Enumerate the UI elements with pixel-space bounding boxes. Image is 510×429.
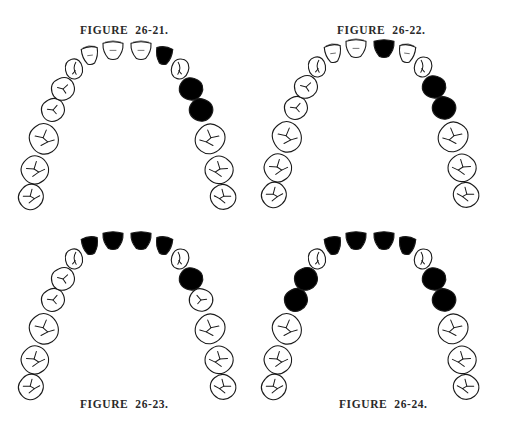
- tooth-right-canine: [169, 247, 190, 271]
- tooth-right-canine: [412, 247, 433, 271]
- tooth-left-third-molar: [14, 180, 49, 214]
- tooth-left-central-incisor: [103, 232, 123, 250]
- tooth-left-first-molar: [24, 309, 64, 350]
- tooth-left-first-molar: [267, 309, 307, 350]
- tooth-right-lateral-incisor: [155, 236, 173, 256]
- tooth-right-second-molar: [200, 151, 238, 189]
- tooth-left-second-molar: [16, 341, 54, 379]
- tooth-right-lateral-incisor: [155, 46, 173, 66]
- figure-26-23: FIGURE 26-23.: [0, 215, 255, 429]
- dental-arch: [0, 215, 255, 429]
- figure-caption: FIGURE 26-21.: [80, 24, 169, 36]
- tooth-left-central-incisor: [103, 41, 123, 60]
- figure-caption: FIGURE 26-23.: [80, 398, 169, 410]
- tooth-left-second-molar: [259, 341, 297, 379]
- tooth-right-canine: [169, 57, 190, 81]
- tooth-left-lateral-incisor: [81, 236, 99, 256]
- tooth-right-lateral-incisor: [398, 43, 416, 64]
- tooth-left-third-molar: [257, 178, 292, 213]
- tooth-right-central-incisor: [374, 232, 394, 250]
- figure-caption: FIGURE 26-22.: [337, 24, 426, 36]
- figure-caption: FIGURE 26-24.: [339, 398, 428, 410]
- tooth-right-first-molar: [190, 309, 230, 350]
- tooth-right-second-molar: [443, 341, 481, 379]
- tooth-left-lateral-incisor: [324, 236, 342, 256]
- tooth-left-central-incisor: [346, 39, 366, 58]
- dental-arch: [255, 215, 510, 429]
- tooth-left-lateral-incisor: [324, 43, 342, 64]
- tooth-right-first-molar: [433, 309, 473, 350]
- tooth-left-central-incisor: [346, 232, 366, 250]
- tooth-left-first-molar: [267, 117, 307, 158]
- tooth-right-central-incisor: [131, 232, 151, 250]
- figure-26-21: FIGURE 26-21.: [0, 0, 255, 214]
- tooth-right-third-molar: [449, 370, 484, 405]
- tooth-right-third-molar: [449, 178, 484, 213]
- tooth-left-second-molar: [16, 151, 54, 189]
- tooth-right-second-molar: [443, 149, 481, 187]
- tooth-left-first-molar: [24, 119, 64, 160]
- figure-26-22: FIGURE 26-22.: [255, 0, 510, 214]
- tooth-right-central-incisor: [374, 40, 394, 58]
- tooth-right-canine: [412, 55, 433, 79]
- tooth-right-third-molar: [206, 180, 241, 214]
- tooth-right-central-incisor: [131, 41, 151, 60]
- tooth-right-lateral-incisor: [398, 236, 416, 256]
- tooth-right-second-molar: [200, 341, 238, 379]
- tooth-right-first-molar: [190, 119, 230, 160]
- tooth-left-third-molar: [257, 370, 292, 405]
- tooth-right-first-molar: [433, 117, 473, 158]
- tooth-left-lateral-incisor: [81, 45, 99, 66]
- figure-26-24: FIGURE 26-24.: [255, 215, 510, 429]
- tooth-right-third-molar: [206, 370, 241, 405]
- tooth-left-third-molar: [14, 370, 49, 405]
- tooth-left-second-molar: [259, 149, 297, 187]
